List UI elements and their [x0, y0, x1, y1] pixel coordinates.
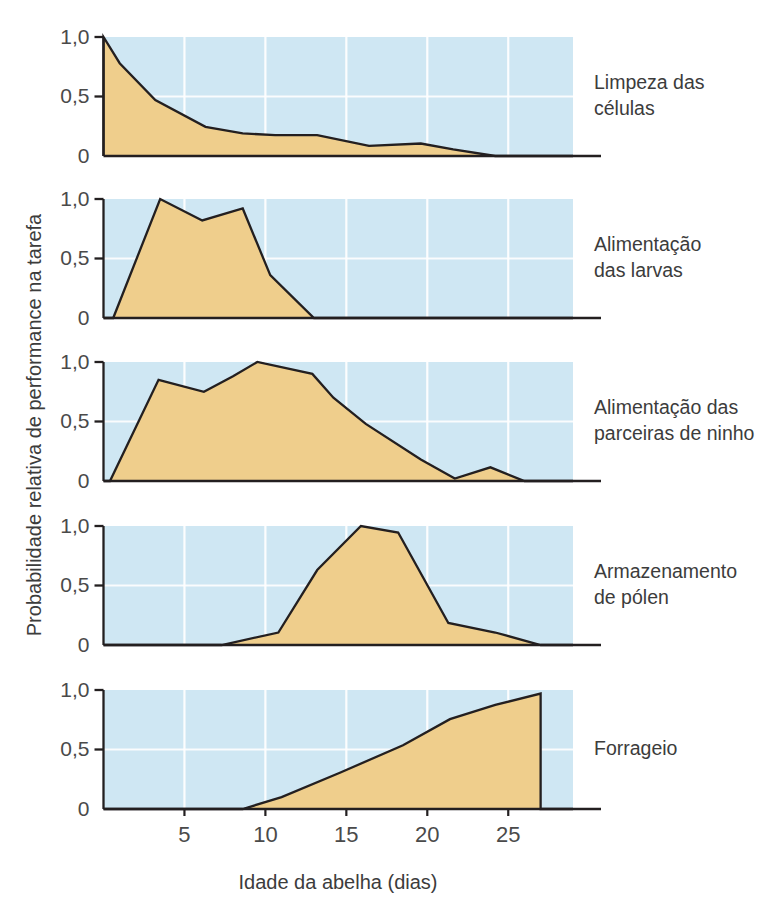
- x-tick-label-20: 20: [415, 822, 439, 847]
- x-tick-label-15: 15: [334, 822, 358, 847]
- y-tick-label-1,0: 1,0: [60, 678, 89, 701]
- x-tick-label-10: 10: [253, 822, 277, 847]
- y-axis-title: Probabilidade relativa de performance na…: [23, 213, 45, 636]
- y-tick-label-0,5: 0,5: [60, 409, 89, 432]
- x-tick-label-5: 5: [178, 822, 190, 847]
- y-tick-label-0: 0: [78, 633, 90, 656]
- x-axis-title: Idade da abelha (dias): [238, 871, 437, 893]
- y-tick-label-1,0: 1,0: [60, 187, 89, 210]
- panel-label-3: parceiras de ninho: [594, 422, 755, 444]
- bee-task-performance-chart: 00,51,0Limpeza dascélulas00,51,0Alimenta…: [0, 0, 763, 905]
- y-tick-label-0: 0: [78, 144, 90, 167]
- x-tick-label-25: 25: [496, 822, 520, 847]
- panel-label-4: de pólen: [594, 586, 669, 608]
- panel-label-4: Armazenamento: [594, 560, 737, 582]
- y-tick-label-0: 0: [78, 306, 90, 329]
- y-tick-label-1,0: 1,0: [60, 25, 89, 48]
- panel-label-2: Alimentação: [594, 233, 701, 255]
- panel-label-1: células: [594, 97, 655, 119]
- y-tick-label-0: 0: [78, 469, 90, 492]
- y-tick-label-0,5: 0,5: [60, 573, 89, 596]
- y-tick-label-0,5: 0,5: [60, 737, 89, 760]
- y-tick-label-0: 0: [78, 797, 90, 820]
- y-tick-label-0,5: 0,5: [60, 84, 89, 107]
- y-tick-label-1,0: 1,0: [60, 514, 89, 537]
- panel-label-5: Forrageio: [594, 737, 678, 759]
- panel-label-1: Limpeza das: [594, 71, 705, 93]
- y-tick-label-1,0: 1,0: [60, 350, 89, 373]
- panel-label-2: das larvas: [594, 259, 683, 281]
- panel-label-3: Alimentação das: [594, 396, 738, 418]
- y-tick-label-0,5: 0,5: [60, 246, 89, 269]
